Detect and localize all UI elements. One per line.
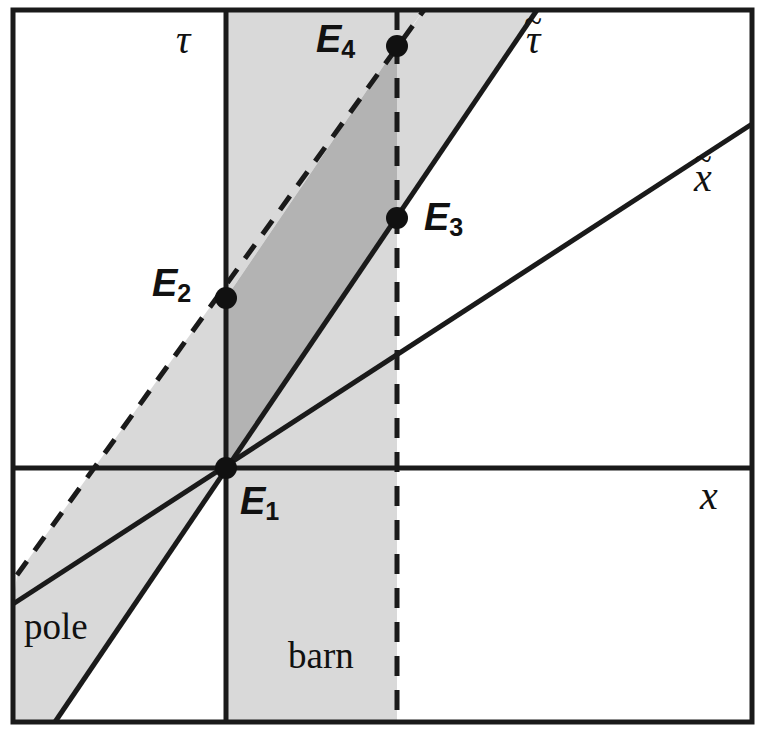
tilde-accent-x: ~	[694, 143, 712, 176]
event-dot-E1[interactable]	[215, 457, 237, 479]
event-dot-E3[interactable]	[386, 207, 408, 229]
x-tilde-axis-label: ~ x	[694, 158, 712, 198]
tilde-accent-tau: ~	[524, 5, 542, 38]
event-dot-E4[interactable]	[386, 35, 408, 57]
spacetime-diagram-figure: τ x ~ τ ~ x E1 E2 E3 E4 pole barn	[0, 0, 765, 745]
shaded-regions	[13, 10, 537, 722]
region-label-pole: pole	[24, 608, 88, 645]
x-axis-label: x	[700, 476, 718, 516]
event-dot-E2[interactable]	[215, 287, 237, 309]
tau-axis-label: τ	[176, 20, 190, 60]
tau-tilde-axis-label: ~ τ	[526, 20, 540, 60]
event-label-E2: E2	[152, 264, 191, 306]
region-label-barn: barn	[288, 637, 354, 674]
event-label-E1: E1	[240, 482, 279, 524]
event-label-E4: E4	[316, 20, 355, 62]
event-label-E3: E3	[424, 198, 463, 240]
diagram-canvas	[0, 0, 765, 745]
